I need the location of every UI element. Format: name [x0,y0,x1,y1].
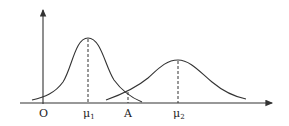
a-label: A [123,107,133,120]
mu1-label: μ1 [83,107,95,121]
origin-label: O [39,107,48,120]
mu2-label: μ2 [173,107,185,121]
normal-curves-diagram: O μ1 A μ2 [0,0,289,126]
